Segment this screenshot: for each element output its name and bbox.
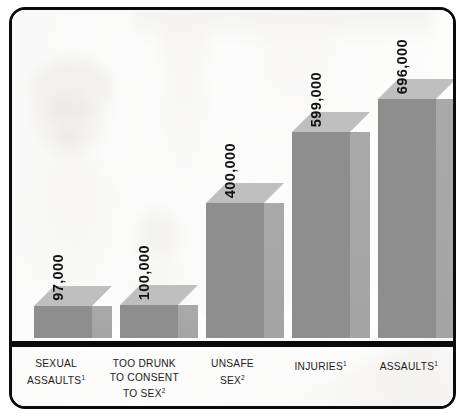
category-line-2-text: SEX (220, 375, 241, 386)
chart-frame: 97,000 100,000 (9, 7, 456, 409)
category-line-2-text: ASSAULTS (27, 375, 81, 386)
category-line-1-text: ASSAULTS (380, 361, 434, 372)
footnote-marker: 2 (241, 374, 245, 381)
bar-too-drunk-to-consent-to-sex (120, 305, 178, 338)
axis-baseline-rule (12, 341, 453, 347)
bar-injuries (292, 132, 350, 338)
category-line-1: UNSAFE (188, 357, 276, 371)
category-label-unsafe-sex: UNSAFE SEX2 (188, 353, 276, 409)
value-label-too-drunk-to-consent-to-sex: 100,000 (136, 245, 152, 300)
bar-side-face (350, 132, 370, 338)
chart-screenshot: 97,000 100,000 (0, 0, 466, 420)
value-label-injuries: 599,000 (308, 72, 324, 127)
category-line-1: SEXUAL (12, 357, 100, 371)
bar-front-face (120, 305, 178, 338)
footnote-marker: 1 (81, 374, 85, 381)
category-label-assaults: ASSAULTS1 (365, 353, 453, 409)
category-line-1: ASSAULTS1 (365, 357, 453, 374)
category-line-3: TO SEX2 (100, 384, 188, 401)
category-label-injuries: INJURIES1 (277, 353, 365, 409)
category-line-1: INJURIES1 (277, 357, 365, 374)
value-label-sexual-assaults: 97,000 (50, 254, 66, 301)
category-line-3-text: TO SEX (123, 388, 162, 399)
bar-side-face (92, 306, 112, 338)
category-line-2: ASSAULTS1 (12, 371, 100, 388)
footnote-marker: 2 (162, 387, 166, 394)
category-line-1-text: INJURIES (295, 361, 343, 372)
category-label-sexual-assaults: SEXUAL ASSAULTS1 (12, 353, 100, 409)
category-axis-labels: SEXUAL ASSAULTS1 TOO DRUNK TO CONSENT TO… (12, 353, 453, 409)
bar-side-face (436, 99, 456, 338)
bar-sexual-assaults (34, 306, 92, 338)
bar-side-face (264, 203, 284, 338)
bar-unsafe-sex (206, 203, 264, 338)
footnote-marker: 1 (434, 360, 438, 367)
value-label-assaults: 696,000 (394, 39, 410, 94)
bar-side-face (178, 305, 198, 338)
category-line-2: TO CONSENT (100, 371, 188, 385)
value-label-unsafe-sex: 400,000 (222, 143, 238, 198)
category-line-1: TOO DRUNK (100, 357, 188, 371)
footnote-marker: 1 (343, 360, 347, 367)
bar-front-face (292, 132, 350, 338)
bar-assaults (378, 99, 436, 338)
bar-front-face (378, 99, 436, 338)
category-label-too-drunk-to-consent-to-sex: TOO DRUNK TO CONSENT TO SEX2 (100, 353, 188, 409)
plot-area: 97,000 100,000 (12, 10, 453, 406)
bar-front-face (34, 306, 92, 338)
bar-front-face (206, 203, 264, 338)
category-line-2: SEX2 (188, 371, 276, 388)
